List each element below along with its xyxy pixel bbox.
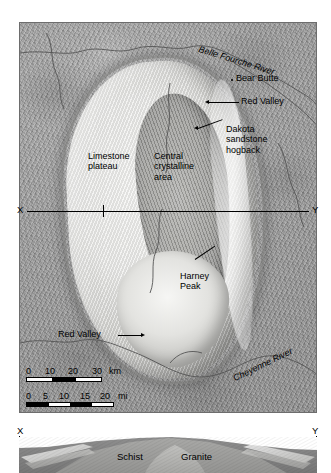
label-central-crystalline-area: Central crystalline area — [154, 151, 194, 182]
section-label-schist: Schist — [117, 451, 143, 462]
scale-km-tick-20: 20 — [68, 366, 78, 376]
scale-mi-seg-2 — [49, 403, 71, 406]
scale-mi-ticks: 0 5 10 15 20 mi — [26, 391, 114, 402]
section-line-tick — [103, 205, 104, 217]
cross-section-label-x: X — [17, 425, 23, 436]
scale-mi-seg-1 — [27, 403, 49, 406]
cross-section-profile — [19, 437, 317, 473]
minor-stream-west — [46, 33, 64, 109]
scale-km-unit: km — [109, 366, 121, 376]
hogback-arrow-icon — [194, 126, 198, 130]
scale-mi-seg-3 — [70, 403, 92, 406]
scale-km-tick-0: 0 — [26, 366, 31, 376]
scale-mi-tick-15: 15 — [80, 391, 90, 401]
scale-mi-seg-4 — [92, 403, 114, 406]
scale-bar-km: 0 10 20 30 km — [26, 366, 114, 382]
scale-km-bar — [26, 377, 102, 382]
section-line-xy — [27, 211, 309, 212]
cross-section-label-y: Y — [312, 425, 318, 436]
section-label-granite: Granite — [181, 451, 212, 462]
section-line-label-y: Y — [312, 204, 318, 215]
interior-stream-2 — [150, 209, 162, 293]
label-red-valley-north: Red Valley — [241, 97, 284, 107]
scale-km-seg-2 — [52, 378, 77, 381]
label-harney-peak: Harney Peak — [180, 271, 209, 292]
label-dakota-sandstone-hogback: Dakota sandstone hogback — [226, 124, 268, 155]
scale-mi-tick-10: 10 — [59, 391, 69, 401]
scale-mi-tick-0: 0 — [26, 391, 31, 401]
scale-mi-tick-20: 20 — [100, 391, 110, 401]
scale-km-tick-30: 30 — [92, 366, 102, 376]
scale-bar-mi: 0 5 10 15 20 mi — [26, 391, 114, 407]
scale-km-seg-1 — [27, 378, 52, 381]
red-valley-north-arrow-icon — [205, 100, 209, 104]
red-valley-south-arrow-icon — [141, 333, 145, 337]
cross-section-panel: Schist Granite — [19, 437, 317, 473]
map-panel: Belle Fourche River Bear Butte Red Valle… — [19, 22, 317, 413]
red-valley-south-leader — [118, 335, 142, 336]
minor-stream-east — [278, 143, 304, 227]
scale-km-tick-10: 10 — [45, 366, 55, 376]
cheyenne-meander — [170, 351, 202, 363]
scale-mi-tick-5: 5 — [43, 391, 48, 401]
section-line-label-x: X — [17, 204, 23, 215]
scale-mi-unit: mi — [118, 391, 128, 401]
scale-km-seg-3 — [76, 378, 101, 381]
label-bear-butte: Bear Butte — [236, 74, 279, 84]
scale-mi-bar — [26, 402, 114, 407]
label-red-valley-south: Red Valley — [58, 330, 101, 340]
scale-km-ticks: 0 10 20 30 km — [26, 366, 114, 377]
scale-bars: 0 10 20 30 km 0 5 10 15 20 mi — [26, 366, 114, 407]
label-limestone-plateau: Limestone plateau — [88, 151, 130, 172]
red-valley-north-leader — [209, 102, 239, 103]
